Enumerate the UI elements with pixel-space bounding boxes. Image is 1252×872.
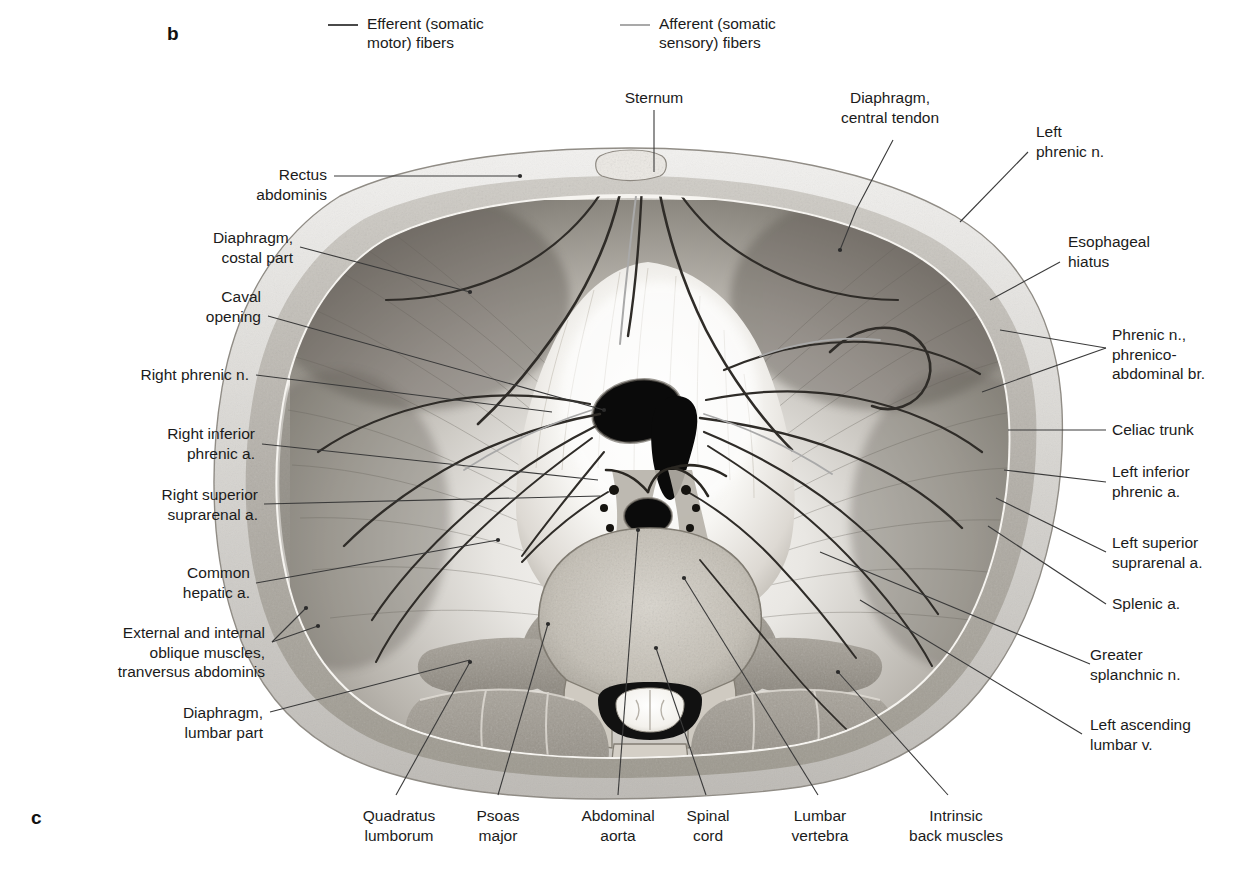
label-esophageal-hiatus: Esophageal hiatus — [1068, 232, 1250, 271]
label-right-phrenic-n: Right phrenic n. — [25, 365, 249, 385]
label-intrinsic-back-muscles: Intrinsic back muscles — [882, 806, 1030, 845]
label-left-phrenic-n: Left phrenic n. — [1036, 122, 1246, 161]
panel-letter-c: c — [31, 808, 42, 827]
label-diaphragm-lumbar-part: Diaphragm, lumbar part — [25, 703, 263, 742]
efferent-line-swatch — [328, 24, 358, 26]
legend-item-efferent: Efferent (somatic motor) fibers — [328, 14, 484, 52]
label-phrenic-n-phrenicoabdominal-br: Phrenic n., phrenico- abdominal br. — [1112, 325, 1252, 384]
label-external-internal-oblique-muscles: External and internal oblique muscles, t… — [10, 623, 265, 682]
legend-item-afferent: Afferent (somatic sensory) fibers — [620, 14, 776, 52]
label-spinal-cord: Spinal cord — [664, 806, 752, 845]
label-abdominal-aorta: Abdominal aorta — [554, 806, 682, 845]
label-psoas-major: Psoas major — [446, 806, 550, 845]
sternum-texture — [596, 150, 667, 181]
label-left-inferior-phrenic-a: Left inferior phrenic a. — [1112, 462, 1252, 501]
label-sternum: Sternum — [584, 88, 724, 108]
afferent-line-swatch — [620, 24, 650, 26]
panel-letter-b: b — [167, 24, 179, 43]
label-left-ascending-lumbar-v: Left ascending lumbar v. — [1090, 715, 1252, 754]
label-diaphragm-central-tendon: Diaphragm, central tendon — [790, 88, 990, 127]
label-rectus-abdominis: Rectus abdominis — [55, 165, 327, 204]
label-splenic-a: Splenic a. — [1112, 594, 1252, 614]
label-right-superior-suprarenal-a: Right superior suprarenal a. — [25, 485, 258, 524]
legend: Efferent (somatic motor) fibers Afferent… — [328, 14, 888, 66]
leader-left-phrenic-n — [960, 152, 1028, 222]
legend-label-afferent: Afferent (somatic sensory) fibers — [659, 14, 776, 52]
label-celiac-trunk: Celiac trunk — [1112, 420, 1252, 440]
label-greater-splanchnic-n: Greater splanchnic n. — [1090, 645, 1252, 684]
label-right-inferior-phrenic-a: Right inferior phrenic a. — [25, 424, 255, 463]
legend-label-efferent: Efferent (somatic motor) fibers — [367, 14, 484, 52]
label-diaphragm-costal-part: Diaphragm, costal part — [25, 228, 293, 267]
label-common-hepatic-a: Common hepatic a. — [25, 563, 250, 602]
label-left-superior-suprarenal-a: Left superior suprarenal a. — [1112, 533, 1252, 572]
figure-stage: b c Efferent (somatic motor) fibers Affe… — [0, 0, 1252, 872]
label-caval-opening: Caval opening — [25, 287, 261, 326]
vertebra-trabecular-texture — [539, 528, 761, 700]
sternum-group — [596, 150, 667, 181]
label-lumbar-vertebra: Lumbar vertebra — [766, 806, 874, 845]
